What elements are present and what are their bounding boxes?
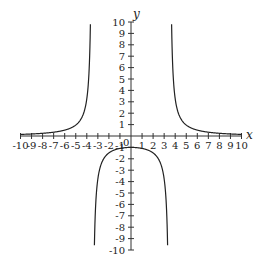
x-tick-label: 7 xyxy=(205,140,211,151)
y-tick-label: 7 xyxy=(119,51,125,62)
y-tick-label: -7 xyxy=(115,210,125,221)
y-tick-label: -5 xyxy=(115,188,125,199)
y-tick-label: 9 xyxy=(119,28,125,39)
x-tick-label: 5 xyxy=(183,140,189,151)
curve-branch-2 xyxy=(172,24,242,134)
x-tick-label: -9 xyxy=(27,140,37,151)
y-tick-label: -3 xyxy=(115,165,125,176)
y-tick-label: 10 xyxy=(112,17,125,28)
x-tick-label: 6 xyxy=(194,140,200,151)
y-tick-label: 1 xyxy=(119,119,125,130)
x-tick-label: -3 xyxy=(93,140,103,151)
x-tick-label: -4 xyxy=(82,140,92,151)
y-tick-label: -2 xyxy=(115,153,125,164)
x-tick-label: -8 xyxy=(38,140,48,151)
y-tick-label: 6 xyxy=(119,62,125,73)
y-tick-label: -9 xyxy=(115,233,125,244)
x-tick-label: -6 xyxy=(60,140,70,151)
x-tick-label: 2 xyxy=(150,140,156,151)
y-tick-label: -6 xyxy=(115,199,125,210)
origin-label: 0 xyxy=(123,137,129,148)
y-tick-label: -8 xyxy=(115,222,125,233)
y-tick-label: 3 xyxy=(119,96,125,107)
x-tick-label: -2 xyxy=(104,140,114,151)
curve-branch-0 xyxy=(21,24,91,134)
y-tick-label: -4 xyxy=(115,176,125,187)
y-tick-label: -10 xyxy=(109,245,125,256)
function-graph: -10-9-8-7-6-5-4-3-2-112345678910-10-9-8-… xyxy=(0,0,259,269)
y-tick-label: 2 xyxy=(119,108,125,119)
x-tick-label: 4 xyxy=(172,140,178,151)
y-axis-label: y xyxy=(132,7,140,21)
x-tick-label: -7 xyxy=(49,140,59,151)
x-tick-label: 3 xyxy=(161,140,167,151)
y-tick-label: 4 xyxy=(119,85,125,96)
x-tick-label: 8 xyxy=(216,140,222,151)
x-axis-label: x xyxy=(246,128,253,142)
x-tick-label: -5 xyxy=(71,140,81,151)
y-tick-label: 8 xyxy=(119,39,125,50)
y-tick-label: 5 xyxy=(119,74,125,85)
x-tick-label: 9 xyxy=(227,140,233,151)
